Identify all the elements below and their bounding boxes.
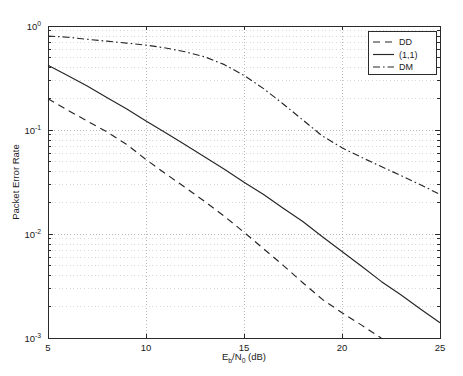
x-tick-label: 20	[337, 342, 348, 353]
x-tick-label: 25	[435, 342, 446, 353]
legend-label-DD: DD	[399, 37, 412, 47]
y-tick-label: 10-3	[24, 332, 41, 344]
x-tick-label: 10	[141, 342, 152, 353]
figure-container: 510152025 10010-110-210-3 Eb/N0 (dB) Pac…	[0, 0, 463, 376]
x-tick-label: 5	[45, 342, 50, 353]
packet-error-rate-chart: 510152025 10010-110-210-3 Eb/N0 (dB) Pac…	[0, 0, 463, 376]
y-tick-label: 10-2	[24, 228, 41, 240]
y-tick-label: 100	[27, 20, 42, 32]
y-axis-tick-labels: 10010-110-210-3	[24, 20, 41, 344]
legend-label-11: (1,1)	[399, 50, 418, 60]
legend[interactable]: DD(1,1)DM	[368, 31, 436, 74]
legend-label-DM: DM	[399, 62, 413, 72]
y-axis-title: Packet Error Rate	[10, 144, 21, 220]
y-tick-label: 10-1	[24, 124, 41, 136]
